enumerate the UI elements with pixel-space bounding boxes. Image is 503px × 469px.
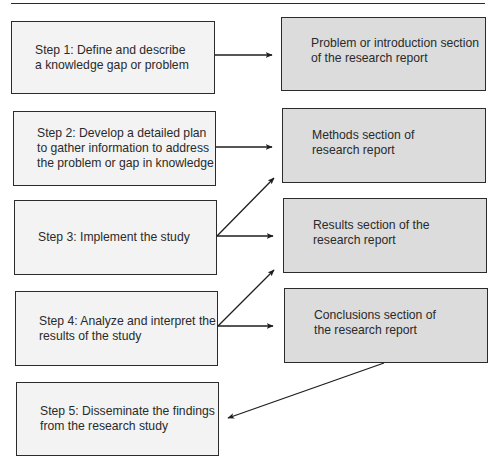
arrow-step4-results: [218, 270, 274, 326]
step-3-box: Step 3: Implement the study: [14, 200, 217, 275]
step-5-box: Step 5: Disseminate the findings from th…: [16, 382, 219, 456]
header-rule: [11, 3, 485, 4]
conclusions-section-box: Conclusions section of the research repo…: [284, 288, 488, 363]
conclusions-section-label: Conclusions section of the research repo…: [285, 308, 436, 338]
step-4-label: Step 4: Analyze and interpret the result…: [16, 314, 216, 344]
results-section-label: Results section of the research report: [284, 218, 430, 248]
step-2-label: Step 2: Develop a detailed plan to gathe…: [14, 126, 214, 171]
methods-section-label: Methods section of research report: [283, 128, 414, 158]
step-1-label: Step 1: Define and describe a knowledge …: [12, 43, 189, 73]
step-1-box: Step 1: Define and describe a knowledge …: [11, 21, 215, 94]
step-5-label: Step 5: Disseminate the findings from th…: [17, 404, 215, 434]
step-2-box: Step 2: Develop a detailed plan to gathe…: [13, 111, 216, 186]
intro-section-label: Problem or introduction section of the r…: [282, 36, 479, 66]
arrow-conclusions-step5: [228, 363, 384, 418]
intro-section-box: Problem or introduction section of the r…: [281, 17, 486, 91]
step-4-box: Step 4: Analyze and interpret the result…: [15, 291, 218, 366]
step-3-label: Step 3: Implement the study: [15, 230, 190, 245]
results-section-box: Results section of the research report: [283, 198, 487, 273]
methods-section-box: Methods section of research report: [282, 108, 486, 183]
arrow-step3-methods: [217, 178, 274, 236]
